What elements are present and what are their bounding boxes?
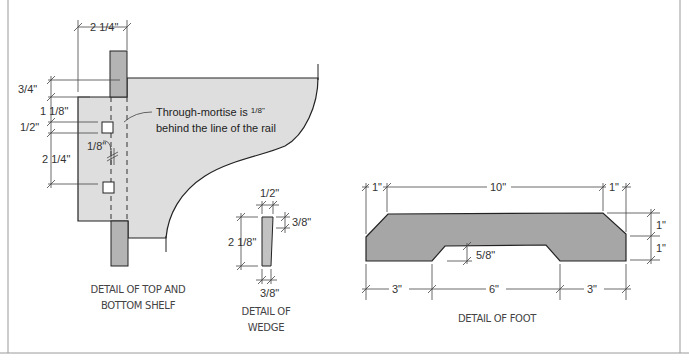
shelf-caption-1: DETAIL OF TOP AND xyxy=(91,284,186,295)
top-rail xyxy=(110,51,127,97)
dim-foot-left-leg: 3" xyxy=(392,283,402,295)
dim-foot-cutout-depth: 5/8" xyxy=(476,249,495,261)
dim-foot-lower-height: 1" xyxy=(656,242,666,254)
dim-mortise: 1/2" xyxy=(20,121,39,133)
drawing-canvas: 2 1/4" 3/4" 1 1/8" 1/2" 2 1/4" 1/8" Thro… xyxy=(0,0,689,362)
dim-foot-right-chamfer: 1" xyxy=(609,181,619,193)
foot-detail: 1" 10" 1" 1" 1" 5/8" 3" 6" 3" DETAIL OF … xyxy=(362,179,666,324)
wedge-shape xyxy=(262,217,273,266)
dim-wedge-side: 3/8" xyxy=(292,216,311,228)
dim-to-mortise: 1 1/8" xyxy=(40,105,68,117)
dim-foot-left-chamfer: 1" xyxy=(372,181,382,193)
dim-foot-cutout-length: 6" xyxy=(489,283,499,295)
dim-foot-right-leg: 3" xyxy=(587,283,597,295)
dim-width-top: 2 1/4" xyxy=(90,21,118,33)
mortise-note-line1: Through-mortise is 1/8" xyxy=(156,106,265,118)
foot-caption: DETAIL OF FOOT xyxy=(458,313,537,324)
dim-wedge-bottom: 3/8" xyxy=(260,287,279,299)
dim-offset: 1/8" xyxy=(87,140,106,152)
shelf-detail: 2 1/4" 3/4" 1 1/8" 1/2" 2 1/4" 1/8" Thro… xyxy=(18,20,318,311)
mortise-note-line2: behind the line of the rail xyxy=(156,122,276,134)
bottom-rail xyxy=(111,221,128,266)
dim-foot-top-length: 10" xyxy=(490,181,506,193)
foot-shape xyxy=(366,213,626,261)
dim-mortise-spacing: 2 1/4" xyxy=(42,153,70,165)
dim-rail-overhang: 3/4" xyxy=(18,83,37,95)
wedge-caption-2: WEDGE xyxy=(248,322,284,333)
wedge-detail: 1/2" 2 1/8" 3/8" 3/8" DETAIL OF WEDGE xyxy=(228,187,311,333)
dim-foot-upper-height: 1" xyxy=(656,219,666,231)
shelf-caption-2: BOTTOM SHELF xyxy=(101,300,176,311)
wedge-caption-1: DETAIL OF xyxy=(242,306,291,317)
dim-wedge-top: 1/2" xyxy=(260,187,279,199)
mortise-top xyxy=(102,122,113,133)
mortise-bottom xyxy=(103,182,114,193)
dim-wedge-height: 2 1/8" xyxy=(228,236,256,248)
